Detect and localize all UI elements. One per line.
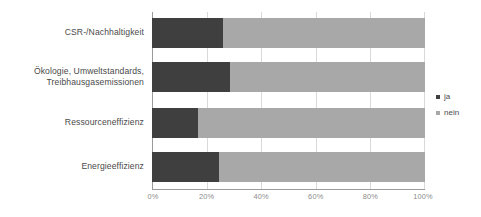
bar-segment-ja: [152, 108, 198, 138]
bar-segment-nein: [223, 18, 425, 48]
category-label-ressourceneffizienz: Ressourceneffizienz: [0, 117, 144, 128]
bar-row-energieeffizienz: [152, 152, 425, 182]
category-label-line: Ökologie, Umweltstandards,: [34, 66, 144, 76]
x-axis-tick-labels: 0% 20% 40% 60% 80% 100%: [152, 192, 425, 206]
stacked-bar-chart: CSR-/Nachhaltigkeit Ökologie, Umweltstan…: [0, 0, 481, 217]
x-tick-40: 40%: [253, 192, 268, 201]
x-tick-0: 0%: [147, 192, 158, 201]
legend-label: nein: [444, 108, 459, 117]
bar-row-csr-nachhaltigkeit: [152, 18, 425, 48]
legend-marker-icon: [436, 95, 440, 99]
category-label-line: Ressourceneffizienz: [65, 117, 144, 127]
category-label-line: Treibhausgasemissionen: [47, 77, 144, 87]
category-label-energieeffizienz: Energieeffizienz: [0, 161, 144, 172]
bar-segment-ja: [152, 62, 230, 92]
bar-segment-nein: [198, 108, 425, 138]
category-label-line: Energieeffizienz: [81, 161, 144, 171]
bar-row-oekologie-umweltstandards: [152, 62, 425, 92]
bar-row-ressourceneffizienz: [152, 108, 425, 138]
category-label-csr-nachhaltigkeit: CSR-/Nachhaltigkeit: [0, 27, 144, 38]
x-tick-80: 80%: [363, 192, 378, 201]
x-tick-100: 100%: [413, 192, 433, 201]
category-label-line: CSR-/Nachhaltigkeit: [65, 27, 144, 37]
x-tick-60: 60%: [308, 192, 323, 201]
legend-item-nein[interactable]: nein: [436, 108, 481, 117]
bar-segment-ja: [152, 152, 219, 182]
plot-area: [152, 12, 425, 190]
legend-marker-icon: [436, 111, 440, 115]
bar-segment-ja: [152, 18, 223, 48]
category-label-oekologie-umweltstandards: Ökologie, Umweltstandards, Treibhausgase…: [0, 66, 144, 88]
bar-segment-nein: [219, 152, 425, 182]
bar-segment-nein: [230, 62, 425, 92]
legend-item-ja[interactable]: ja: [436, 92, 481, 101]
chart-legend: ja nein: [436, 92, 481, 124]
x-tick-20: 20%: [199, 192, 214, 201]
bars-container: [152, 12, 425, 190]
legend-label: ja: [444, 92, 450, 101]
category-axis-labels: CSR-/Nachhaltigkeit Ökologie, Umweltstan…: [0, 0, 148, 190]
